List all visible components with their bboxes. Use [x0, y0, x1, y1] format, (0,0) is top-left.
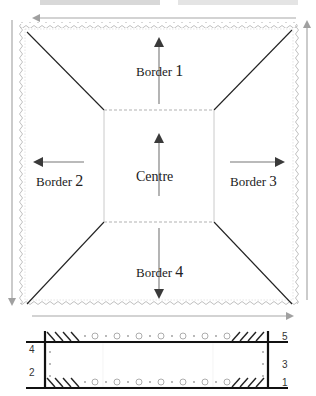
border3-label: Border 3 [230, 173, 277, 189]
strip-label-3: 3 [282, 359, 288, 370]
border2-label: Border 2 [36, 172, 83, 189]
diagram-canvas: Border 1 Border 2 Border 3 Border 4 Cent… [0, 0, 316, 396]
strip-label-2: 2 [29, 367, 35, 378]
title-partial [40, 0, 298, 5]
centre-label: Centre [136, 169, 173, 184]
strip-label-1: 1 [282, 377, 288, 388]
strip-label-4: 4 [29, 344, 35, 355]
border4-label: Border 4 [136, 263, 183, 280]
strip-label-5: 5 [282, 331, 288, 342]
strip-diagram: 4 2 5 3 1 [26, 331, 288, 389]
border1-label: Border 1 [136, 62, 183, 79]
